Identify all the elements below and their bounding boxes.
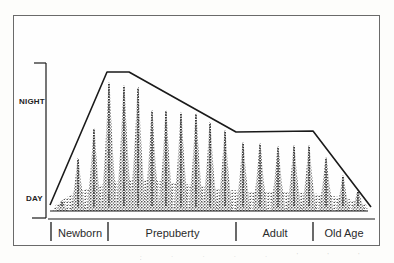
- stage-label-newborn: Newborn: [52, 227, 108, 239]
- y-label-night: NIGHT: [19, 97, 45, 106]
- stage-label-prepuberty: Prepuberty: [109, 227, 236, 239]
- stage-label-old-age: Old Age: [314, 227, 374, 239]
- y-label-day: DAY: [26, 194, 43, 203]
- cropped-caption-fragments: . . . . . ' ' ' ' . . .: [140, 252, 380, 260]
- stage-label-adult: Adult: [237, 227, 313, 239]
- sleep-diagram-plot: [0, 0, 394, 263]
